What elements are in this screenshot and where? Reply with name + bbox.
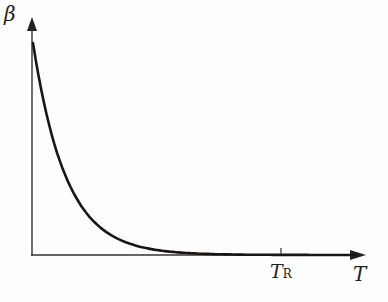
chart-canvas bbox=[0, 0, 388, 302]
y-axis-label: β bbox=[4, 2, 16, 26]
chart: β TR T bbox=[0, 0, 388, 302]
tr-tick-label: TR bbox=[270, 260, 292, 282]
beta-curve bbox=[33, 43, 356, 255]
x-axis-label: T bbox=[353, 262, 366, 286]
tr-tick-sub: R bbox=[283, 267, 292, 281]
tr-tick-main: T bbox=[270, 260, 283, 282]
y-axis-arrow-icon bbox=[27, 17, 37, 31]
